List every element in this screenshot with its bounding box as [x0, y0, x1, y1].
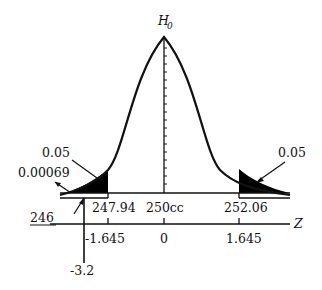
right-alpha-label: 0.05: [278, 145, 306, 160]
label-246: 246: [30, 210, 54, 225]
label-252-06: 252.06: [224, 200, 268, 215]
z-label-neg-1-645: -1.645: [85, 231, 125, 246]
null-hypothesis-subscript: 0: [167, 21, 173, 31]
left-alpha-label: 0.05: [42, 145, 70, 160]
p-value-label: 0.00069: [18, 165, 70, 180]
left-alpha-arrow: [72, 160, 97, 178]
observed-z-label: -3.2: [70, 263, 94, 278]
p-value-arrowhead: [55, 182, 61, 187]
normal-curve: [60, 37, 290, 195]
label-247-94: 247.94: [92, 200, 136, 215]
z-label-1-645: 1.645: [226, 231, 262, 246]
right-rejection-region: [239, 169, 290, 193]
label-250cc: 250cc: [146, 200, 184, 215]
right-alpha-arrow: [258, 162, 285, 181]
z-label-0: 0: [160, 231, 168, 246]
hypothesis-test-diagram: H 0 246 247.94 250cc 252.06 Z -1.645 0 1…: [0, 0, 322, 290]
z-axis-name: Z: [293, 216, 303, 231]
left-rejection-region: [66, 170, 108, 193]
